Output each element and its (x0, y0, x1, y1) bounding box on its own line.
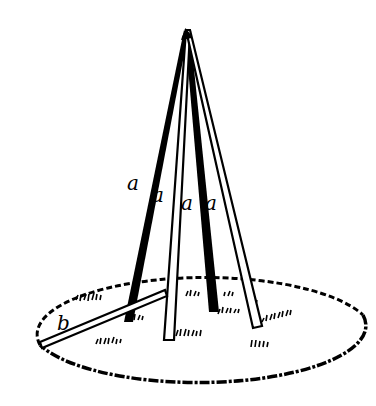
label-a-4: a (205, 191, 217, 215)
label-a-2: a (152, 183, 164, 207)
label-b: b (57, 311, 70, 335)
pole-a-4 (186, 30, 262, 328)
pole-a-3 (185, 30, 219, 312)
label-a-1: a (127, 171, 139, 195)
tepee-diagram: a a a a b (0, 0, 376, 406)
label-a-3: a (181, 191, 193, 215)
diagram-svg: a a a a b (0, 0, 376, 406)
